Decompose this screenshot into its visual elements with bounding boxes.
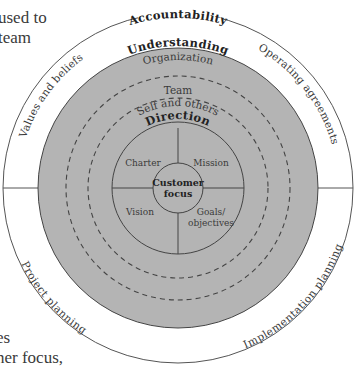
goals-objectives-label-line1: Goals/	[197, 207, 226, 217]
goals-objectives-label-line2: objectives	[188, 218, 234, 228]
mission-label: Mission	[193, 158, 229, 168]
customer-focus-label-line2: focus	[164, 188, 192, 199]
charter-label: Charter	[125, 158, 161, 168]
team-label: Team	[164, 84, 193, 96]
customer-focus-label-line1: Customer	[152, 177, 205, 188]
concentric-diagram: Accountability Values and beliefs Operat…	[0, 0, 360, 367]
vision-label: Vision	[125, 207, 154, 217]
